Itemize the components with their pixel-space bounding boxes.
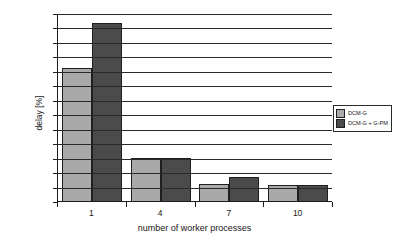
legend-item: DCM-G + G-PM	[336, 119, 389, 128]
plot-area	[57, 14, 332, 202]
x-axis-tick	[126, 202, 127, 207]
x-axis-title: number of worker processes	[57, 223, 332, 233]
x-axis-tick	[57, 202, 58, 207]
legend-swatch-icon	[336, 109, 345, 118]
grid-line	[58, 188, 332, 189]
legend-swatch-icon	[336, 119, 345, 128]
grid-line	[58, 130, 332, 131]
bar	[62, 68, 92, 201]
x-axis-tick-label: 4	[158, 208, 163, 218]
y-axis: 02,557,51012,51517,52022,52527,53032,5	[0, 0, 54, 247]
grid-line	[58, 72, 332, 73]
x-axis-tick	[332, 202, 333, 207]
legend-item-label: DCM-G	[348, 110, 367, 117]
x-axis-tick	[195, 202, 196, 207]
grid-line	[58, 86, 332, 87]
bar	[199, 184, 229, 201]
x-axis-tick-label: 10	[293, 208, 302, 218]
chart-legend: DCM-G DCM-G + G-PM	[333, 105, 392, 132]
grid-line	[58, 173, 332, 174]
x-axis-tick-label: 7	[227, 208, 232, 218]
grid-line	[58, 57, 332, 58]
grid-line	[58, 101, 332, 102]
bar	[92, 23, 122, 201]
grid-line	[58, 115, 332, 116]
grid-line	[58, 14, 332, 15]
bar-chart: 02,557,51012,51517,52022,52527,53032,5 d…	[0, 0, 412, 247]
grid-line	[58, 159, 332, 160]
x-axis-tick	[263, 202, 264, 207]
bar	[161, 158, 191, 201]
y-axis-title: delay [%]	[34, 68, 44, 158]
legend-item-label: DCM-G + G-PM	[348, 120, 388, 127]
legend-item: DCM-G	[336, 109, 389, 118]
grid-line	[58, 144, 332, 145]
grid-line	[58, 28, 332, 29]
bar	[131, 158, 161, 201]
x-axis-tick-label: 1	[89, 208, 94, 218]
bar	[229, 177, 259, 201]
grid-line	[58, 43, 332, 44]
